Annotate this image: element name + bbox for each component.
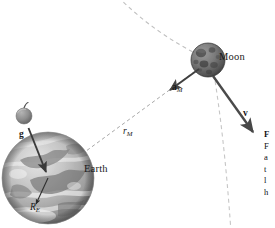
earth-radius-label: RE bbox=[30, 203, 40, 214]
caption-line: h bbox=[264, 187, 275, 199]
velocity-symbol: v bbox=[243, 108, 248, 118]
distance-rm-subscript: M bbox=[127, 130, 133, 137]
figure-canvas bbox=[0, 0, 275, 228]
gravity-label: g bbox=[19, 130, 24, 140]
caption-line: F bbox=[264, 141, 275, 153]
caption-line: l bbox=[264, 175, 275, 187]
gravitation-figure: Moon Earth aM v rM g RE F F a t l h bbox=[0, 0, 275, 228]
moon-orbit-path bbox=[108, 0, 231, 228]
earth-label: Earth bbox=[84, 164, 108, 175]
velocity-label: v bbox=[243, 109, 248, 119]
distance-rm-label: rM bbox=[123, 127, 132, 138]
acceleration-moon-subscript: M bbox=[177, 86, 183, 93]
gravity-symbol: g bbox=[19, 129, 24, 139]
vector-v bbox=[213, 76, 253, 132]
figure-caption-clipped: F F a t l h bbox=[264, 129, 275, 201]
caption-line: a bbox=[264, 152, 275, 164]
apple-body bbox=[16, 103, 32, 125]
caption-line: t bbox=[264, 164, 275, 176]
caption-line: F bbox=[264, 129, 275, 141]
earth-radius-subscript: E bbox=[36, 206, 40, 213]
earth-body bbox=[2, 132, 96, 224]
acceleration-moon-label: aM bbox=[172, 83, 182, 94]
moon-label: Moon bbox=[219, 52, 245, 63]
